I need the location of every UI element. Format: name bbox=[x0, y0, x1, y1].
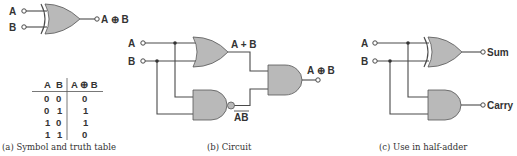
input-a-label: A bbox=[9, 6, 16, 17]
tt-cell: 0 bbox=[82, 129, 87, 140]
input-b-label: B bbox=[128, 56, 135, 67]
panel-b-circuit: A B A + B AB A ⊕ B bbox=[128, 37, 335, 123]
tt-cell: 1 bbox=[57, 105, 63, 116]
input-a-label: A bbox=[361, 38, 368, 49]
output-label: A ⊕ B bbox=[101, 14, 129, 25]
caption-b: (b) Circuit bbox=[207, 142, 252, 152]
tt-header-a: A bbox=[44, 79, 51, 90]
input-a-terminal bbox=[141, 41, 145, 45]
panel-a-symbol: A B A ⊕ B bbox=[9, 4, 129, 34]
input-b-terminal bbox=[141, 59, 145, 63]
junction-dot bbox=[406, 41, 410, 45]
tt-header-b: B bbox=[56, 79, 63, 90]
caption-a: (a) Symbol and truth table bbox=[2, 142, 116, 152]
xor-gate-figure: A B A ⊕ B A B A ⊕ B 0 0 0 0 1 1 1 0 1 1 … bbox=[0, 0, 517, 156]
tt-cell: 1 bbox=[57, 129, 63, 140]
sum-label: Sum bbox=[487, 47, 509, 58]
and-gate bbox=[428, 90, 461, 120]
nand-gate bbox=[193, 90, 227, 120]
carry-label: Carry bbox=[487, 100, 514, 111]
caption-c: (c) Use in half-adder bbox=[379, 142, 468, 152]
output-terminal bbox=[95, 17, 99, 21]
input-b-label: B bbox=[361, 56, 368, 67]
input-b-label: B bbox=[9, 22, 16, 33]
panel-c-half-adder: A B Sum Carry bbox=[361, 37, 514, 120]
tt-cell: 1 bbox=[45, 117, 51, 128]
tt-cell: 1 bbox=[83, 105, 89, 116]
nand-output-label: AB bbox=[234, 112, 248, 123]
tt-cell: 0 bbox=[56, 117, 61, 128]
output-label: A ⊕ B bbox=[307, 65, 335, 76]
junction-dot bbox=[155, 59, 159, 63]
junction-dot bbox=[173, 41, 177, 45]
sum-terminal bbox=[481, 50, 485, 54]
tt-header-out: A ⊕ B bbox=[71, 79, 98, 90]
tt-cell: 1 bbox=[45, 129, 51, 140]
xor-gate bbox=[424, 37, 462, 67]
xor-gate-symbol bbox=[41, 4, 80, 34]
nand-bubble bbox=[228, 102, 235, 109]
output-terminal bbox=[316, 78, 320, 82]
input-a-terminal bbox=[22, 9, 26, 13]
input-b-terminal bbox=[373, 59, 377, 63]
input-b-terminal bbox=[22, 25, 26, 29]
tt-cell: 0 bbox=[56, 93, 61, 104]
tt-cell: 1 bbox=[83, 117, 89, 128]
input-a-terminal bbox=[373, 41, 377, 45]
truth-table: A B A ⊕ B 0 0 0 0 1 1 1 0 1 1 1 0 bbox=[32, 78, 103, 140]
or-output-label: A + B bbox=[231, 39, 256, 50]
input-a-label: A bbox=[128, 38, 135, 49]
junction-dot bbox=[388, 59, 392, 63]
tt-cell: 0 bbox=[82, 93, 87, 104]
tt-cell: 0 bbox=[44, 93, 49, 104]
tt-cell: 0 bbox=[44, 105, 49, 116]
or-gate bbox=[193, 37, 228, 67]
carry-terminal bbox=[481, 103, 485, 107]
and-gate bbox=[268, 65, 302, 95]
